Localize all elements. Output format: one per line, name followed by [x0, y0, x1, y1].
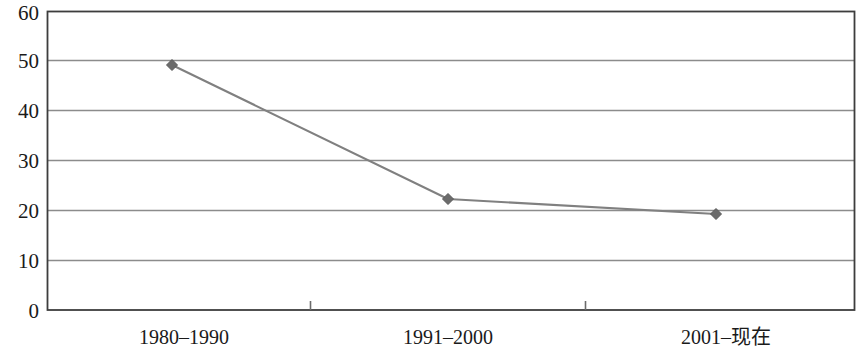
y-axis-labels: 60 50 40 30 20 10 0 — [18, 1, 39, 323]
y-tick-label-0: 0 — [29, 299, 40, 323]
x-axis-labels: 1980–1990 1991–2000 2001–现在 — [139, 326, 771, 348]
y-tick-label-10: 10 — [18, 249, 39, 273]
y-tick-label-30: 30 — [18, 149, 39, 173]
chart-figure: 60 50 40 30 20 10 0 1980–1990 1991–2000 … — [0, 0, 862, 351]
x-tick-label-0: 1980–1990 — [139, 326, 229, 348]
x-tick-label-2: 2001–现在 — [681, 326, 771, 348]
y-tick-label-40: 40 — [18, 99, 39, 123]
y-tick-label-20: 20 — [18, 199, 39, 223]
line-chart: 60 50 40 30 20 10 0 1980–1990 1991–2000 … — [0, 0, 862, 351]
x-tick-label-1: 1991–2000 — [403, 326, 493, 348]
y-tick-label-50: 50 — [18, 49, 39, 73]
y-tick-label-60: 60 — [18, 1, 39, 25]
